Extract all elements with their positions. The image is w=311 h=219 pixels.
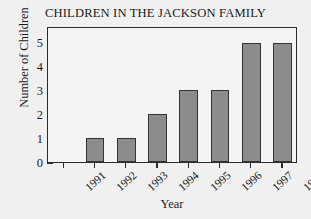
x-tick-label-1997: 1997 xyxy=(270,169,295,193)
x-tick-label-1991: 1991 xyxy=(82,169,107,193)
plot-frame xyxy=(47,27,297,163)
x-tick-label-1996: 1996 xyxy=(239,169,264,193)
bar-1996 xyxy=(211,90,230,162)
x-tick-mark xyxy=(188,163,189,168)
x-tick-mark xyxy=(219,163,220,168)
x-tick-label-1994: 1994 xyxy=(176,169,201,193)
bar-1995 xyxy=(179,90,198,162)
x-tick-label-1998: 1998 xyxy=(301,169,311,193)
bar-slot xyxy=(267,28,298,162)
chart-title: CHILDREN IN THE JACKSON FAMILY xyxy=(0,6,311,21)
bar-slot xyxy=(79,28,110,162)
bar-1998 xyxy=(273,43,292,162)
bar-1997 xyxy=(242,43,261,162)
y-tick-label: 0 xyxy=(37,157,47,170)
bar-1993 xyxy=(117,138,136,162)
bar-slot xyxy=(111,28,142,162)
bar-slot xyxy=(173,28,204,162)
bar-slot xyxy=(142,28,173,162)
y-tick-label: 4 xyxy=(37,61,47,74)
x-axis-title: Year xyxy=(47,197,297,212)
x-tick-label-1995: 1995 xyxy=(207,169,232,193)
x-tick-mark xyxy=(281,163,282,168)
bar-slot xyxy=(236,28,267,162)
bar-slot xyxy=(204,28,235,162)
y-tick-label: 2 xyxy=(37,109,47,122)
y-tick-label: 5 xyxy=(37,37,47,50)
x-tick-mark xyxy=(250,163,251,168)
x-tick-mark xyxy=(125,163,126,168)
x-tick-label-1993: 1993 xyxy=(145,169,170,193)
x-tick-mark xyxy=(63,163,64,168)
bar-chart-figure: CHILDREN IN THE JACKSON FAMILY 012345 Nu… xyxy=(0,0,311,219)
y-tick-label: 3 xyxy=(37,85,47,98)
bar-1992 xyxy=(86,138,105,162)
x-tick-label-1992: 1992 xyxy=(114,169,139,193)
x-tick-mark xyxy=(94,163,95,168)
bar-slot xyxy=(48,28,79,162)
bar-1994 xyxy=(148,114,167,162)
plot-area xyxy=(48,28,296,162)
y-axis-title: Number of Children xyxy=(17,0,32,118)
x-tick-mark xyxy=(156,163,157,168)
y-tick-label: 1 xyxy=(37,133,47,146)
